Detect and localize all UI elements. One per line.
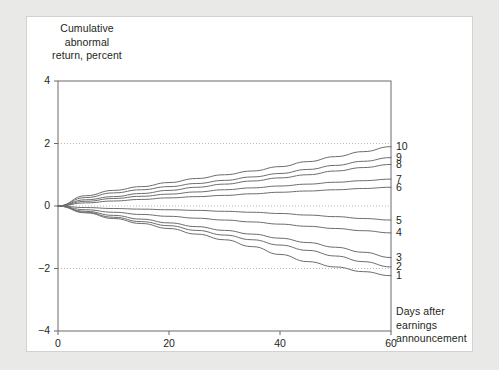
series-label-1: 1 xyxy=(396,270,416,281)
gridlines-group xyxy=(58,144,391,269)
series-lines xyxy=(58,147,391,276)
y-tick-label-3: −2 xyxy=(26,263,50,274)
series-label-6: 6 xyxy=(396,182,416,193)
plot-frame xyxy=(58,81,391,331)
plot-area: Cumulative abnormal return, percent Days… xyxy=(27,17,474,353)
x-tick-label-2: 40 xyxy=(265,338,295,349)
y-tick-label-1: 2 xyxy=(26,138,50,149)
x-tick-label-3: 60 xyxy=(376,338,406,349)
series-label-5: 5 xyxy=(396,215,416,226)
series-label-8: 8 xyxy=(396,159,416,170)
series-line-7 xyxy=(58,179,391,206)
series-line-4 xyxy=(58,206,391,233)
series-line-3 xyxy=(58,206,391,258)
y-tick-label-4: −4 xyxy=(26,325,50,336)
x-tick-label-1: 20 xyxy=(154,338,184,349)
y-tick-label-0: 4 xyxy=(26,75,50,86)
series-line-8 xyxy=(58,164,391,206)
axis-frame xyxy=(58,81,391,331)
series-label-4: 4 xyxy=(396,227,416,238)
y-tick-label-2: 0 xyxy=(26,200,50,211)
figure-card: Cumulative abnormal return, percent Days… xyxy=(26,16,473,352)
x-tick-label-0: 0 xyxy=(43,338,73,349)
